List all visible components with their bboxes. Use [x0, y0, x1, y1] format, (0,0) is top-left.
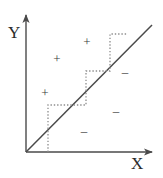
- y-axis-label: Y: [8, 24, 20, 41]
- data-point-negative: –: [122, 65, 129, 78]
- x-axis-label: X: [131, 155, 143, 172]
- scatter-plot-figure: Y X + + + – – –: [0, 0, 163, 178]
- data-point-negative: –: [81, 124, 88, 137]
- data-point-positive: +: [83, 35, 90, 48]
- data-point-negative: –: [113, 104, 120, 117]
- data-point-positive: +: [53, 52, 60, 65]
- plot-canvas: [0, 0, 163, 178]
- data-point-positive: +: [41, 86, 48, 99]
